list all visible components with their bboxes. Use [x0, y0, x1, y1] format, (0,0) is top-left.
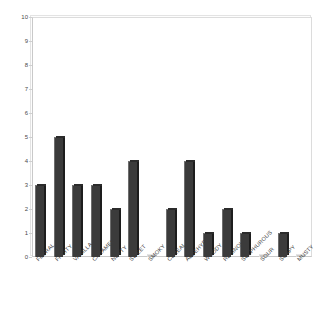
y-axis-tick-label: 9	[2, 38, 28, 45]
x-axis-labels: FLORALFRUITYVANILLACARAMELNUTTYSWEETSMOK…	[32, 258, 312, 323]
y-axis-tick-label: 6	[2, 110, 28, 117]
y-axis-tick-label: 10	[2, 14, 28, 21]
bar-chart: 012345678910 FLORALFRUITYVANILLACARAMELN…	[0, 0, 320, 323]
y-axis-tick-label: 1	[2, 230, 28, 237]
bar-slot	[51, 17, 70, 257]
y-axis-tick-label: 7	[2, 86, 28, 93]
bar-slot	[32, 17, 51, 257]
bar-top-face	[37, 184, 46, 186]
bar-side-face	[81, 185, 83, 255]
y-axis-tick-label: 2	[2, 206, 28, 213]
y-axis-tick-label: 8	[2, 62, 28, 69]
y-axis-tick-label: 4	[2, 158, 28, 165]
bar-top-face	[93, 184, 102, 186]
y-axis: 012345678910	[0, 10, 32, 264]
bar-top-face	[130, 160, 139, 162]
y-axis-tick-label: 5	[2, 134, 28, 141]
y-axis-tick-label: 3	[2, 182, 28, 189]
bar-top-face	[186, 160, 195, 162]
bar-floral[interactable]	[35, 185, 44, 257]
bar-side-face	[44, 185, 46, 255]
bar-top-face	[74, 184, 83, 186]
y-axis-tick-label: 0	[2, 254, 28, 261]
bar-top-face	[56, 136, 65, 138]
